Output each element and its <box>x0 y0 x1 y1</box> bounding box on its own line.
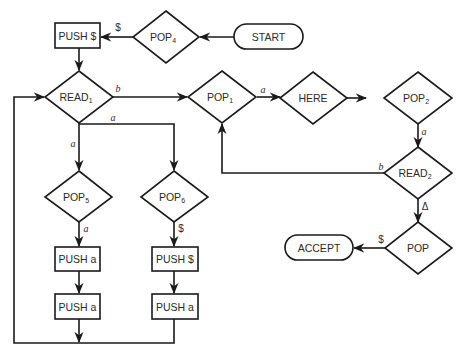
node-start: START <box>234 24 303 49</box>
node-push-dollar-top-label: PUSH $ <box>59 30 97 42</box>
node-push-dollar-mid: PUSH $ <box>152 247 198 271</box>
svg-text:READ2: READ2 <box>398 167 431 180</box>
node-pop4: POP4 <box>133 11 199 63</box>
node-start-label: START <box>252 31 286 43</box>
node-push-a-1-label: PUSH a <box>59 253 97 265</box>
edge-label-pop4-push: $ <box>115 22 121 33</box>
edge-read2-pop1 <box>222 124 384 173</box>
edge-labels: $ b a a a a b Δ $ a $ <box>71 22 429 245</box>
node-push-a-2: PUSH a <box>55 294 100 319</box>
node-here: HERE <box>280 72 347 124</box>
edge-label-read2-pop: Δ <box>422 201 429 212</box>
edge-label-pop2-read2: a <box>422 126 427 137</box>
node-pop1: POP1 <box>188 71 256 123</box>
node-read2: READ2 <box>384 147 452 199</box>
node-accept: ACCEPT <box>285 235 353 260</box>
node-accept-label: ACCEPT <box>298 242 341 254</box>
node-pop: POP <box>385 222 452 274</box>
node-pop6: POP6 <box>141 171 208 222</box>
node-push-a-3-label: PUSH a <box>156 301 194 313</box>
flowchart-canvas: $ b a a a a b Δ $ a $ START POP4 PUSH $ … <box>0 0 466 353</box>
node-push-a-3: PUSH a <box>152 294 198 319</box>
edge-label-pop5-push: a <box>84 223 89 234</box>
svg-text:READ1: READ1 <box>59 91 92 104</box>
edge-label-pop6-push: $ <box>178 223 184 234</box>
node-pop5: POP5 <box>45 171 112 222</box>
edge-label-read1-pop1: b <box>116 83 121 94</box>
node-push-dollar-mid-label: PUSH $ <box>156 253 194 265</box>
node-push-a-2-label: PUSH a <box>59 301 97 313</box>
node-push-a-1: PUSH a <box>55 247 100 271</box>
edge-label-read1-branch: a <box>111 112 116 123</box>
edge-read1-pop6 <box>79 124 174 170</box>
edge-label-pop1-here: a <box>261 84 266 95</box>
node-pop2: POP2 <box>384 72 452 124</box>
node-push-dollar-top: PUSH $ <box>55 23 100 48</box>
edge-label-read1-pop5: a <box>71 138 76 149</box>
node-read1: READ1 <box>45 71 113 123</box>
node-here-label: HERE <box>298 92 327 104</box>
node-pop-label: POP <box>407 242 429 254</box>
edge-label-read2-pop1: b <box>379 161 384 172</box>
edge-label-pop-accept: $ <box>378 234 384 245</box>
